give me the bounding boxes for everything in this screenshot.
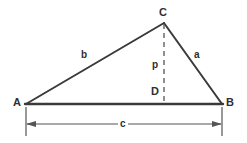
- side-label-b: b: [81, 50, 87, 60]
- vertex-label-b: B: [226, 97, 234, 108]
- side-label-a: a: [194, 50, 200, 60]
- geometry-diagram: A B C D b a p c: [0, 0, 247, 143]
- foot-label-d: D: [151, 86, 159, 97]
- side-b-segment: [26, 23, 164, 104]
- vertex-label-a: A: [13, 97, 21, 108]
- vertex-label-c: C: [159, 7, 167, 18]
- altitude-label-p: p: [152, 60, 158, 70]
- side-a-segment: [164, 23, 222, 104]
- dimension-arrowhead-right: [212, 121, 222, 127]
- dimension-label-c: c: [118, 119, 128, 129]
- dimension-arrowhead-left: [26, 121, 36, 127]
